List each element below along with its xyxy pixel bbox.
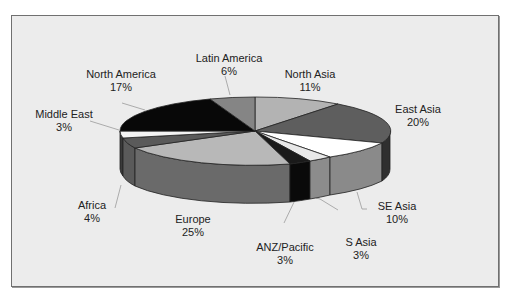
label-africa: Africa4% [78, 199, 106, 225]
label-north-asia: North Asia11% [285, 68, 336, 94]
label-east-asia: East Asia20% [395, 103, 441, 129]
label-latin-america: Latin America6% [196, 52, 263, 78]
label-s-asia: S Asia3% [345, 236, 376, 262]
pie-chart [0, 0, 508, 303]
label-se-asia: SE Asia10% [378, 200, 417, 226]
label-north-america: North America17% [86, 68, 156, 94]
label-anz-pacific: ANZ/Pacific3% [256, 241, 313, 267]
label-europe: Europe25% [175, 213, 210, 239]
label-middle-east: Middle East3% [35, 108, 92, 134]
